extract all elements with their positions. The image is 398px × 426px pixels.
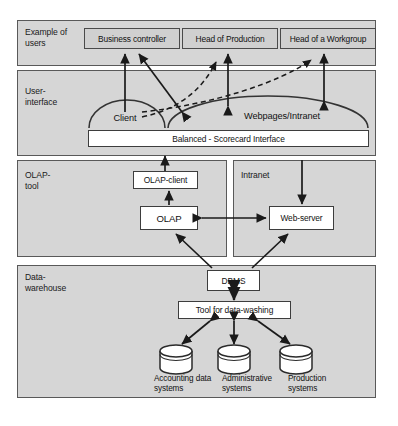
box-tool-for-data-washing[interactable]: Tool for data-washing xyxy=(178,301,291,319)
box-label: Tool for data-washing xyxy=(196,305,274,315)
box-label: Web-server xyxy=(280,213,322,223)
box-olap-client[interactable]: OLAP-client xyxy=(133,171,198,189)
db-label-administrative-systems: Administrative systems xyxy=(222,374,284,394)
dome-label-webpages-intranet: Webpages/Intranet xyxy=(222,111,342,121)
box-olap[interactable]: OLAP xyxy=(140,206,198,230)
user-box-label: Head of Production xyxy=(196,34,265,44)
box-label: OLAP-client xyxy=(144,175,188,185)
subpanel-label-intranet: Intranet xyxy=(241,170,311,181)
balanced-scorecard-interface-bar[interactable]: Balanced - Scorecard Interface xyxy=(88,130,369,147)
box-dbms[interactable]: DBMS xyxy=(207,270,260,291)
interface-bar-label: Balanced - Scorecard Interface xyxy=(172,134,284,144)
user-box-head-of-a-workgroup[interactable]: Head of a Workgroup xyxy=(280,28,376,49)
user-box-head-of-production[interactable]: Head of Production xyxy=(182,28,278,49)
box-label: OLAP xyxy=(156,213,181,224)
architecture-diagram: Example of users Business controller Hea… xyxy=(0,0,398,426)
user-box-business-controller[interactable]: Business controller xyxy=(84,28,180,49)
box-label: DBMS xyxy=(222,276,246,286)
db-label-production-systems: Production systems xyxy=(288,374,350,394)
layer-label-data-warehouse: Data- warehouse xyxy=(25,272,95,293)
layer-label-olap-tool: OLAP- tool xyxy=(25,170,85,191)
box-web-server[interactable]: Web-server xyxy=(269,206,334,230)
user-box-label: Head of a Workgroup xyxy=(290,34,367,44)
db-label-accounting-data-systems: Accounting data systems xyxy=(154,374,216,394)
layer-label-user-interface: User- interface xyxy=(25,86,85,107)
dome-label-client: Client xyxy=(95,113,155,123)
user-box-label: Business controller xyxy=(98,34,166,44)
layer-label-users: Example of users xyxy=(25,27,85,48)
